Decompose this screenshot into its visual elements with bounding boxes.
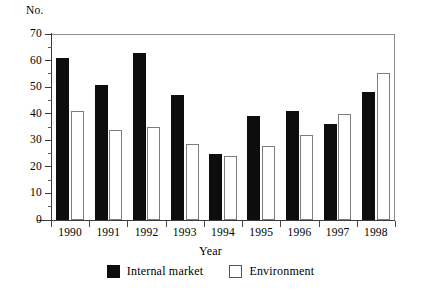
x-tick-label: 1990 xyxy=(51,226,89,239)
y-tick-label: 30 xyxy=(30,134,42,146)
bar-1995-environment xyxy=(262,146,275,220)
bar-group xyxy=(247,34,275,220)
y-axis-title: No. xyxy=(26,4,44,16)
bar-1995-internal-market xyxy=(247,116,260,220)
bar-1997-environment xyxy=(338,114,351,220)
bar-1996-internal-market xyxy=(286,111,299,220)
bar-group xyxy=(209,34,237,220)
x-tick-label: 1992 xyxy=(127,226,165,239)
bar-group xyxy=(362,34,390,220)
x-tick-label: 1998 xyxy=(357,226,395,239)
x-tick-label: 1997 xyxy=(319,226,357,239)
x-tick-label: 1995 xyxy=(242,226,280,239)
bar-group xyxy=(286,34,314,220)
bar-1994-environment xyxy=(224,156,237,220)
y-tick-label: 0 xyxy=(36,214,42,226)
x-tick-label: 1994 xyxy=(204,226,242,239)
bar-group xyxy=(171,34,199,220)
x-axis-line xyxy=(37,220,395,221)
bar-group xyxy=(95,34,123,220)
y-tick-label: 20 xyxy=(30,161,42,173)
bar-group xyxy=(56,34,84,220)
bar-1996-environment xyxy=(300,135,313,220)
legend-swatch-outlined-square xyxy=(229,265,242,278)
legend-label-internal-market: Internal market xyxy=(127,264,204,278)
y-tick-label: 70 xyxy=(30,28,42,40)
y-tick-label: 40 xyxy=(30,108,42,120)
legend-entry-internal-market: Internal market xyxy=(107,264,204,278)
bar-group xyxy=(133,34,161,220)
bar-group xyxy=(324,34,352,220)
bar-1994-internal-market xyxy=(209,154,222,220)
x-tick-label: 1996 xyxy=(280,226,318,239)
legend-entry-environment: Environment xyxy=(229,264,314,278)
bar-1991-environment xyxy=(109,130,122,220)
bar-chart-figure: No. 010203040506070 19901991199219931994… xyxy=(0,0,421,302)
x-tick-label: 1993 xyxy=(166,226,204,239)
x-tick-label: 1991 xyxy=(89,226,127,239)
bar-1990-environment xyxy=(71,111,84,220)
bar-1993-environment xyxy=(186,144,199,220)
bar-1998-environment xyxy=(377,73,390,220)
x-axis-title: Year xyxy=(0,245,421,258)
y-tick-label: 50 xyxy=(30,81,42,93)
legend-swatch-filled-square xyxy=(107,265,120,278)
y-tick-label: 60 xyxy=(30,55,42,67)
bar-1991-internal-market xyxy=(95,85,108,221)
bar-1998-internal-market xyxy=(362,92,375,220)
bar-1997-internal-market xyxy=(324,124,337,220)
bar-1990-internal-market xyxy=(56,58,69,220)
bar-1992-internal-market xyxy=(133,53,146,220)
x-tick-mark xyxy=(395,221,396,227)
bars-layer xyxy=(51,34,395,220)
legend-label-environment: Environment xyxy=(249,264,314,278)
bar-1993-internal-market xyxy=(171,95,184,220)
chart-legend: Internal market Environment xyxy=(0,264,421,278)
bar-1992-environment xyxy=(147,127,160,220)
y-tick-label: 10 xyxy=(30,187,42,199)
